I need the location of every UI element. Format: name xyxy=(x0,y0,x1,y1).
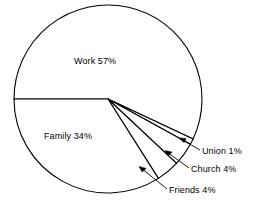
slice-label-friends: Friends 4% xyxy=(169,185,216,196)
slice-label-union: Union 1% xyxy=(202,146,242,157)
slice-label-work: Work 57% xyxy=(74,56,116,67)
pie-chart: Work 57% Family 34% Union 1% Church 4% F… xyxy=(0,0,259,215)
slice-label-family: Family 34% xyxy=(44,131,92,142)
pie-chart-canvas xyxy=(0,0,259,215)
slice-label-church: Church 4% xyxy=(191,164,236,175)
